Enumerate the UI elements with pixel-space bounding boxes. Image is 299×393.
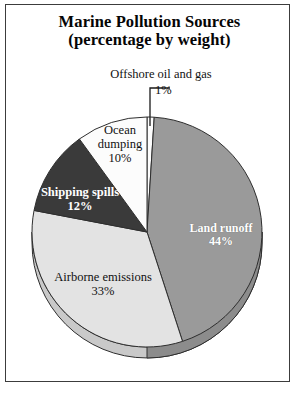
pie-chart: Offshore oil and gas 1% Ocean dumping 10… — [0, 0, 299, 393]
slice-label-offshore-value: 1% — [155, 83, 172, 98]
pie-chart-svg — [0, 0, 299, 393]
figure-container: Marine Pollution Sources (percentage by … — [0, 0, 299, 393]
pie-slices — [32, 117, 262, 347]
